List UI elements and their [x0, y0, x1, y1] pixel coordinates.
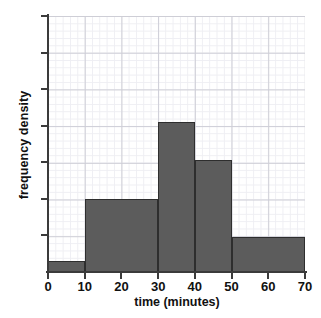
x-axis-tick — [267, 272, 269, 279]
y-axis-tick — [41, 161, 48, 163]
x-axis-tick-label: 20 — [101, 279, 141, 294]
histogram-chart: frequency density 010203040506070 time (… — [0, 0, 321, 318]
x-axis-tick — [231, 272, 233, 279]
y-axis-tick — [41, 125, 48, 127]
x-axis-tick-label: 10 — [65, 279, 105, 294]
x-axis-tick — [304, 272, 306, 279]
histogram-bar — [85, 199, 158, 272]
x-axis-tick — [84, 272, 86, 279]
x-axis-tick — [120, 272, 122, 279]
y-axis-tick — [41, 88, 48, 90]
x-axis-tick-label: 50 — [212, 279, 252, 294]
x-axis-tick-label: 60 — [248, 279, 288, 294]
x-axis-tick — [157, 272, 159, 279]
plot-area — [48, 16, 305, 272]
y-axis-tick — [41, 52, 48, 54]
x-axis-tick — [194, 272, 196, 279]
x-axis-tick — [47, 272, 49, 279]
x-axis-tick-label: 70 — [285, 279, 321, 294]
y-axis-title: frequency density — [17, 65, 31, 225]
histogram-bar — [232, 237, 305, 272]
x-axis-tick-label: 40 — [175, 279, 215, 294]
y-axis-tick — [41, 234, 48, 236]
x-axis-tick-label: 0 — [28, 279, 68, 294]
y-axis-tick — [41, 198, 48, 200]
y-axis-tick — [41, 15, 48, 17]
x-axis-title: time (minutes) — [48, 295, 306, 309]
x-axis-tick-label: 30 — [138, 279, 178, 294]
histogram-bar — [195, 160, 232, 272]
histogram-bar — [158, 122, 195, 272]
